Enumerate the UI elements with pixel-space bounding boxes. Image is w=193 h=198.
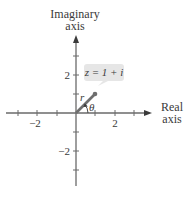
tick-label-y-neg-2: −2 (58, 145, 70, 157)
angle-label: θ (89, 101, 95, 113)
tick-label-y-pos-2: 2 (65, 69, 71, 81)
complex-plane-diagram: Imaginary axis Real axis 2 −2 2 −2 z = 1… (0, 0, 193, 198)
imaginary-axis-label-2: axis (65, 19, 85, 33)
imaginary-axis-arrow-icon (73, 35, 79, 43)
point-z (93, 92, 98, 97)
point-label-callout: z = 1 + i (84, 64, 124, 86)
tick-label-x-neg-2: −2 (29, 117, 41, 129)
real-axis-arrow-icon (144, 110, 152, 116)
real-axis-label-2: axis (162, 112, 182, 126)
modulus-label: r (80, 91, 85, 103)
tick-label-x-pos-2: 2 (112, 117, 118, 129)
point-label: z = 1 + i (84, 66, 124, 78)
